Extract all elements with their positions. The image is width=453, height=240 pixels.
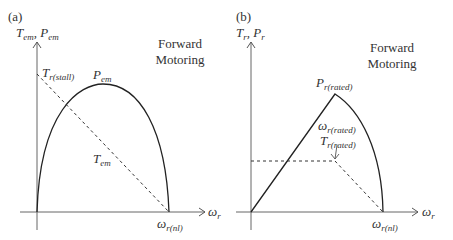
panel-a-y-axis-label: Tem, Pem <box>16 26 59 42</box>
panel-b-power-curve <box>251 94 383 212</box>
panel-a-note: ForwardMotoring <box>150 36 210 68</box>
panel-b-note: ForwardMotoring <box>362 40 422 72</box>
panel-b-tag: (b) <box>236 10 251 23</box>
panel-b-x-axis-label: ωr <box>422 205 435 221</box>
panel-b-rated-power-label: Pr(rated) <box>316 76 352 92</box>
diagram-canvas <box>0 0 453 240</box>
panel-a-power-label: Pem <box>93 68 111 84</box>
panel-a-stall-label: Tr(stall) <box>42 66 74 82</box>
panel-b-rated-torque-label: Tr(rated) <box>320 134 356 150</box>
panel-a-torque-label: Tem <box>93 152 111 168</box>
panel-b-y-axis-label: Tr, Pr <box>236 26 265 42</box>
panel-a-power-curve <box>37 84 169 212</box>
panel-a-x-axis-label: ωr <box>208 205 221 221</box>
panel-b-noload-label: ωr(nl) <box>372 217 398 233</box>
panel-a-noload-label: ωr(nl) <box>157 217 183 233</box>
panel-a-torque-line <box>37 74 169 212</box>
panel-b-torque-line <box>251 161 383 212</box>
panel-a-tag: (a) <box>8 10 22 23</box>
